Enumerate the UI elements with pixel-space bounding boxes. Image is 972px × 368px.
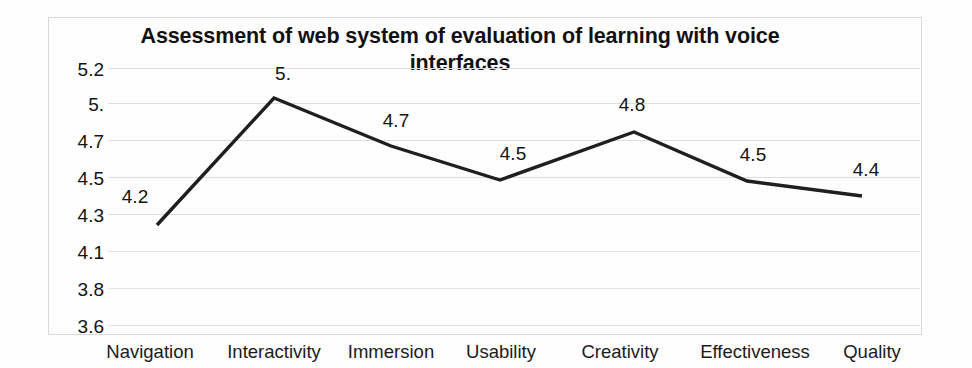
x-tick-label-quality: Quality [843,341,901,363]
x-tick-label-navigation: Navigation [106,341,193,363]
x-tick-label-effectiveness: Effectiveness [700,341,810,363]
x-tick-label-creativity: Creativity [581,341,658,363]
x-tick-label-immersion: Immersion [348,341,434,363]
data-label-interactivity: 5. [275,64,291,83]
data-label-creativity: 4.8 [619,95,645,114]
data-label-navigation: 4.2 [122,187,148,206]
data-label-usability: 4.5 [500,144,526,163]
x-tick-label-usability: Usability [466,341,536,363]
x-axis-labels: Navigation Interactivity Immersion Usabi… [0,341,972,367]
series-line-chart [0,0,972,368]
data-label-effectiveness: 4.5 [740,145,766,164]
data-label-immersion: 4.7 [383,111,409,130]
data-label-quality: 4.4 [853,160,879,179]
x-tick-label-interactivity: Interactivity [227,341,321,363]
chart-figure: Assessment of web system of evaluation o… [0,0,972,368]
